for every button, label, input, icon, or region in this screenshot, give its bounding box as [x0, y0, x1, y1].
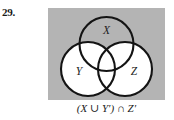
- set-label-z: Z: [131, 65, 138, 77]
- venn-svg: X Y Z: [48, 8, 165, 100]
- diagram-plate: X Y Z: [48, 8, 165, 100]
- venn-diagram-figure: 29.: [0, 0, 174, 120]
- set-label-x: X: [102, 24, 111, 36]
- diagram-caption: (X ∪ Y′) ∩ Z′: [48, 101, 165, 115]
- exercise-number: 29.: [2, 6, 15, 18]
